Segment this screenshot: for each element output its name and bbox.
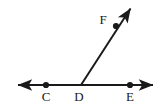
point-f-dot <box>113 23 119 29</box>
geometry-diagram: C D E F <box>0 0 165 107</box>
point-c-dot <box>43 82 49 88</box>
point-e-dot <box>127 82 133 88</box>
geometry-canvas: C D E F <box>0 0 165 107</box>
point-label-f: F <box>99 12 106 27</box>
point-label-e: E <box>126 89 134 104</box>
point-label-c: C <box>42 89 51 104</box>
point-label-d: D <box>74 89 83 104</box>
